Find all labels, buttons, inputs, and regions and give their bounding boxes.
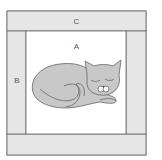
label-b: B [14, 76, 19, 85]
label-a: A [74, 42, 80, 51]
strip-c-bottom [7, 134, 146, 155]
label-c: C [74, 17, 80, 26]
quilt-block-diagram: C A B [0, 0, 162, 160]
strip-b-right [126, 31, 146, 134]
